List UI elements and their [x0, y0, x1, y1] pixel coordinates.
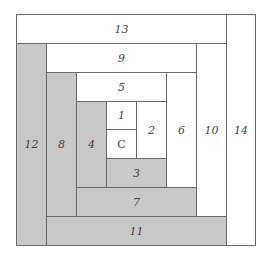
- piece-label: 12: [25, 138, 39, 151]
- piece-14: 14: [226, 14, 256, 246]
- piece-2: 2: [136, 101, 167, 159]
- piece-label: 3: [133, 167, 140, 180]
- piece-label: 10: [205, 124, 219, 137]
- piece-label: 14: [234, 124, 248, 137]
- piece-3: 3: [106, 158, 167, 188]
- piece-label: 5: [118, 81, 125, 94]
- piece-6: 6: [166, 72, 197, 188]
- log-cabin-block: 13 14 12 9 10 8 11 5 6 4 7 1 C 2 3: [16, 14, 256, 246]
- piece-label: 4: [88, 138, 95, 151]
- piece-10: 10: [196, 43, 227, 217]
- piece-label: C: [117, 138, 125, 151]
- piece-9: 9: [46, 43, 197, 73]
- piece-label: 2: [148, 124, 155, 137]
- piece-5: 5: [76, 72, 167, 102]
- piece-12: 12: [16, 43, 47, 246]
- piece-label: 11: [130, 225, 144, 238]
- piece-11: 11: [46, 216, 227, 246]
- piece-label: 8: [58, 138, 65, 151]
- piece-7: 7: [76, 187, 197, 217]
- piece-4: 4: [76, 101, 107, 188]
- piece-1: 1: [106, 101, 137, 130]
- piece-center: C: [106, 129, 137, 159]
- piece-label: 1: [118, 109, 125, 122]
- piece-label: 13: [115, 23, 129, 36]
- piece-label: 7: [133, 196, 140, 209]
- piece-label: 9: [118, 52, 125, 65]
- piece-8: 8: [46, 72, 77, 217]
- piece-13: 13: [16, 14, 227, 44]
- piece-label: 6: [178, 124, 185, 137]
